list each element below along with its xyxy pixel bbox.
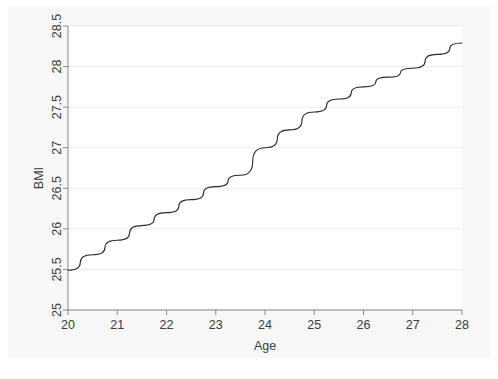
y-tick-label: 28 [50, 60, 64, 74]
y-tick-label: 25 [50, 303, 64, 317]
line-chart-svg: 2525.52626.52727.52828.5 202122232425262… [0, 0, 498, 379]
y-tick-label: 26 [50, 222, 64, 236]
chart-figure: 2525.52626.52727.52828.5 202122232425262… [0, 0, 498, 379]
x-tick-label: 24 [258, 318, 272, 332]
x-tick-label: 20 [61, 318, 75, 332]
x-tick-label: 27 [406, 318, 420, 332]
y-tick-label: 26.5 [50, 176, 64, 200]
y-tick-label: 27 [50, 141, 64, 155]
x-tick-label: 25 [307, 318, 321, 332]
plot-container: 2525.52626.52727.52828.5 202122232425262… [0, 0, 498, 379]
x-tick-label: 22 [160, 318, 174, 332]
y-tick-label: 25.5 [50, 257, 64, 281]
x-tick-label: 23 [209, 318, 223, 332]
x-axis-title: Age [254, 339, 276, 353]
y-tick-label: 27.5 [50, 95, 64, 119]
y-tick-label: 28.5 [50, 14, 64, 38]
x-tick-label: 26 [357, 318, 371, 332]
x-tick-label: 21 [110, 318, 124, 332]
x-axis-ticks-group: 202122232425262728 [61, 310, 469, 332]
y-axis-ticks-group: 2525.52626.52727.52828.5 [50, 14, 68, 317]
y-axis-title: BMI [32, 167, 46, 189]
x-tick-label: 28 [455, 318, 469, 332]
plot-area-background [68, 26, 462, 310]
